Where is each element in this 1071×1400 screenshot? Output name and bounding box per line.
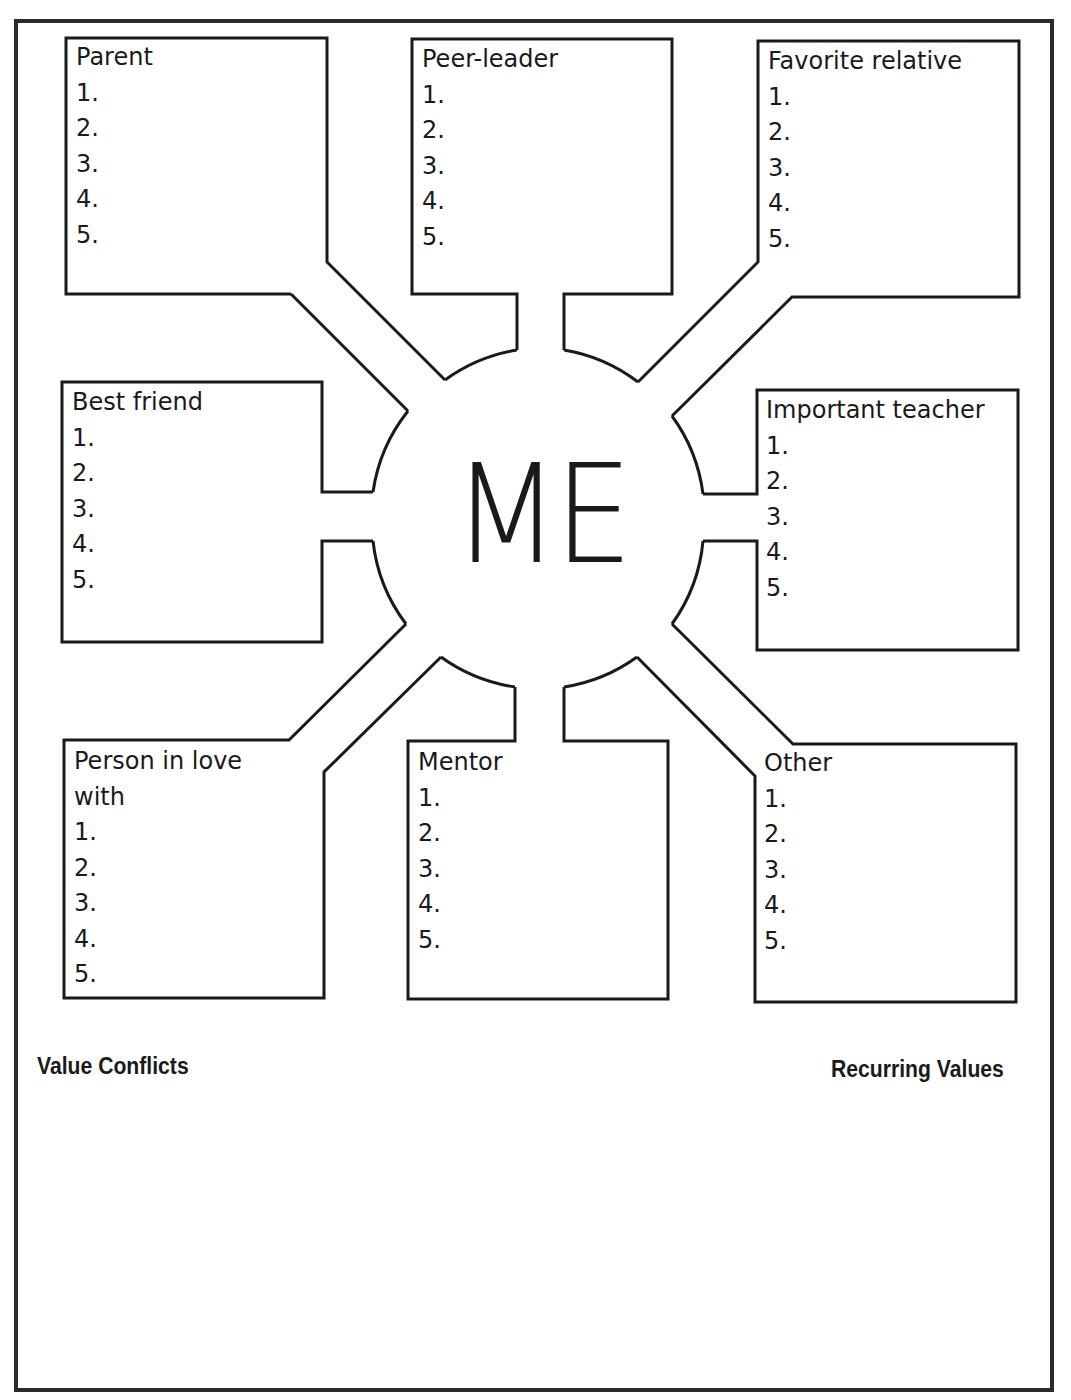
box-parent: Parent 1. 2. 3. 4. 5. bbox=[76, 40, 153, 253]
list-item[interactable]: 1. bbox=[72, 421, 203, 457]
list-item[interactable]: 2. bbox=[768, 115, 962, 151]
recurring-values-heading: Recurring Values bbox=[831, 1056, 1004, 1083]
list-item[interactable]: 4. bbox=[418, 887, 503, 923]
list-item[interactable]: 1. bbox=[766, 429, 985, 465]
list-item[interactable]: 5. bbox=[72, 563, 203, 599]
list-item[interactable]: 1. bbox=[76, 76, 153, 112]
center-circle-arc-bottom-right bbox=[564, 657, 637, 687]
list-item[interactable]: 3. bbox=[766, 500, 985, 536]
box-title: Mentor bbox=[418, 745, 503, 781]
list-item[interactable]: 2. bbox=[72, 456, 203, 492]
list-item[interactable]: 1. bbox=[74, 815, 242, 851]
box-mentor: Mentor 1. 2. 3. 4. 5. bbox=[418, 745, 503, 958]
center-circle-arc-top-right bbox=[564, 350, 638, 382]
list-item[interactable]: 5. bbox=[768, 222, 962, 258]
box-title: Peer-leader bbox=[422, 42, 558, 78]
list-item[interactable]: 4. bbox=[422, 184, 558, 220]
list-item[interactable]: 3. bbox=[76, 147, 153, 183]
list-item[interactable]: 4. bbox=[74, 922, 242, 958]
list-item[interactable]: 4. bbox=[766, 535, 985, 571]
list-item[interactable]: 3. bbox=[768, 151, 962, 187]
list-item[interactable]: 2. bbox=[422, 113, 558, 149]
list-item[interactable]: 3. bbox=[72, 492, 203, 528]
list-item[interactable]: 5. bbox=[422, 220, 558, 256]
center-circle-arc-top bbox=[445, 350, 517, 380]
list-item[interactable]: 2. bbox=[74, 851, 242, 887]
box-title: Important teacher bbox=[766, 393, 985, 429]
list-item[interactable]: 2. bbox=[418, 816, 503, 852]
box-peer-leader: Peer-leader 1. 2. 3. 4. 5. bbox=[422, 42, 558, 255]
list-item[interactable]: 5. bbox=[76, 218, 153, 254]
box-title: Parent bbox=[76, 40, 153, 76]
list-item[interactable]: 3. bbox=[422, 149, 558, 185]
list-item[interactable]: 2. bbox=[76, 111, 153, 147]
list-item[interactable]: 3. bbox=[764, 853, 832, 889]
list-item[interactable]: 2. bbox=[766, 464, 985, 500]
list-item[interactable]: 5. bbox=[74, 957, 242, 993]
center-circle-arc-bottom bbox=[441, 657, 515, 687]
center-circle-arc-left-bottom bbox=[373, 541, 406, 624]
box-best-friend: Best friend 1. 2. 3. 4. 5. bbox=[72, 385, 203, 598]
list-item[interactable]: 1. bbox=[422, 78, 558, 114]
box-person-in-love-with: Person in love with 1. 2. 3. 4. 5. bbox=[74, 744, 242, 993]
list-item[interactable]: 4. bbox=[72, 527, 203, 563]
list-item[interactable]: 1. bbox=[418, 781, 503, 817]
center-circle-arc-right-bottom bbox=[672, 541, 703, 624]
box-favorite-relative: Favorite relative 1. 2. 3. 4. 5. bbox=[768, 44, 962, 257]
center-circle-arc-right-top bbox=[672, 416, 703, 494]
box-title: Best friend bbox=[72, 385, 203, 421]
box-title: Other bbox=[764, 746, 832, 782]
box-title: Favorite relative bbox=[768, 44, 962, 80]
list-item[interactable]: 5. bbox=[766, 571, 985, 607]
list-item[interactable]: 5. bbox=[764, 924, 832, 960]
box-title: Person in love with bbox=[74, 744, 242, 815]
list-item[interactable]: 4. bbox=[764, 888, 832, 924]
center-circle-arc-left-top bbox=[373, 411, 408, 492]
parent-arm bbox=[291, 294, 408, 411]
list-item[interactable]: 3. bbox=[418, 852, 503, 888]
list-item[interactable]: 3. bbox=[74, 886, 242, 922]
box-important-teacher: Important teacher 1. 2. 3. 4. 5. bbox=[766, 393, 985, 606]
list-item[interactable]: 4. bbox=[768, 186, 962, 222]
list-item[interactable]: 2. bbox=[764, 817, 832, 853]
center-label: ME bbox=[450, 440, 630, 590]
list-item[interactable]: 5. bbox=[418, 923, 503, 959]
list-item[interactable]: 1. bbox=[764, 782, 832, 818]
list-item[interactable]: 4. bbox=[76, 182, 153, 218]
list-item[interactable]: 1. bbox=[768, 80, 962, 116]
value-conflicts-heading: Value Conflicts bbox=[37, 1053, 189, 1080]
box-other: Other 1. 2. 3. 4. 5. bbox=[764, 746, 832, 959]
